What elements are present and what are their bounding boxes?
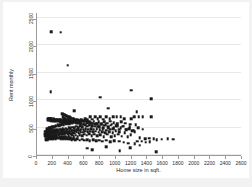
scatter-point <box>95 140 98 143</box>
scatter-point <box>112 132 115 135</box>
scatter-point <box>130 117 133 120</box>
scatter-point <box>130 133 133 136</box>
x-tick-label: 1800 <box>172 160 183 166</box>
scatter-point <box>132 129 135 132</box>
scatter-point <box>105 139 108 142</box>
x-tick-mark <box>115 156 116 159</box>
x-tick-label: 200 <box>48 160 56 166</box>
scatter-point <box>89 139 92 142</box>
scatter-point <box>150 98 153 101</box>
y-tick-label: 1500 <box>29 68 34 79</box>
y-tick-label: 500 <box>29 124 34 132</box>
x-tick-mark <box>83 156 84 159</box>
scatter-point <box>172 138 175 141</box>
scatter-point <box>118 150 121 153</box>
scatter-point <box>105 116 108 119</box>
scatter-point <box>109 141 112 144</box>
scatter-point <box>94 125 97 128</box>
scatter-point <box>128 126 131 129</box>
scatter-point <box>117 133 120 136</box>
x-tick-mark <box>68 156 69 159</box>
scatter-point <box>141 140 144 143</box>
x-axis-title: Home size in sqft. <box>36 167 241 173</box>
scatter-point <box>66 64 69 67</box>
scatter-point <box>144 137 147 140</box>
scatter-point <box>107 107 110 110</box>
y-axis-ticks: 05001000150020002500 <box>3 2 36 156</box>
x-tick-mark <box>241 156 242 159</box>
scatter-point <box>92 131 95 134</box>
scatter-point <box>123 132 126 135</box>
scatter-point <box>61 116 64 119</box>
scatter-point <box>98 139 101 142</box>
gridline <box>37 17 241 18</box>
scatter-point <box>113 121 116 124</box>
scatter-point <box>81 138 84 141</box>
gridline <box>37 72 241 73</box>
scatter-point <box>104 132 107 135</box>
scatter-point <box>98 126 101 129</box>
scatter-point <box>83 139 86 142</box>
scatter-point <box>138 144 141 147</box>
gridline <box>37 154 241 155</box>
scatter-point <box>102 136 105 139</box>
scatter-point <box>129 147 132 150</box>
scatter-point <box>141 116 144 119</box>
x-tick-mark <box>99 156 100 159</box>
scatter-point <box>118 140 121 143</box>
scatter-point <box>96 134 99 137</box>
scatter-point <box>86 138 89 141</box>
scatter-point <box>148 141 151 144</box>
x-tick-mark <box>146 156 147 159</box>
y-tick-label: 1000 <box>29 95 34 106</box>
scatter-point <box>44 139 47 142</box>
scatter-point <box>130 89 133 92</box>
scatter-point <box>98 131 101 134</box>
scatter-point <box>90 125 93 128</box>
scatter-point <box>114 134 117 137</box>
scatter-point <box>87 124 90 127</box>
scatter-point <box>46 118 49 121</box>
scatter-point <box>118 128 121 131</box>
x-tick-mark <box>52 156 53 159</box>
scatter-point <box>160 138 163 141</box>
gridline <box>37 99 241 100</box>
scatter-point <box>145 141 148 144</box>
scatter-point <box>123 117 126 120</box>
scatter-point <box>133 143 136 146</box>
scatter-point <box>50 31 53 34</box>
scatter-point <box>107 127 110 130</box>
scatter-point <box>104 123 107 126</box>
x-tick-label: 1000 <box>109 160 120 166</box>
x-tick-label: 800 <box>95 160 103 166</box>
scatter-point <box>109 120 112 123</box>
y-tick-label: 0 <box>29 155 34 158</box>
scatter-point <box>137 115 140 118</box>
x-tick-mark <box>209 156 210 159</box>
scatter-point <box>105 145 108 148</box>
scatter-point <box>148 137 151 140</box>
x-tick-label: 1600 <box>157 160 168 166</box>
scatter-point <box>120 121 123 124</box>
scatter-point <box>110 136 113 139</box>
scatter-point <box>97 117 100 120</box>
scatter-point <box>91 148 94 151</box>
scatter-point <box>125 128 128 131</box>
scatter-point <box>86 131 89 134</box>
scatter-point <box>150 115 153 118</box>
scatter-point <box>120 135 123 138</box>
scatter-point <box>135 110 138 113</box>
scatter-point <box>44 133 47 136</box>
scatter-point <box>92 139 95 142</box>
x-tick-label: 2200 <box>204 160 215 166</box>
scatter-point <box>127 142 130 145</box>
scatter-point <box>84 123 87 126</box>
scatter-point <box>155 150 158 153</box>
scatter-point <box>115 115 118 118</box>
y-tick-label: 2000 <box>29 40 34 51</box>
scatter-point <box>82 123 85 126</box>
x-tick-label: 2400 <box>220 160 231 166</box>
scatter-point <box>112 127 115 130</box>
scatter-point <box>99 96 102 99</box>
scatter-point <box>101 140 104 143</box>
